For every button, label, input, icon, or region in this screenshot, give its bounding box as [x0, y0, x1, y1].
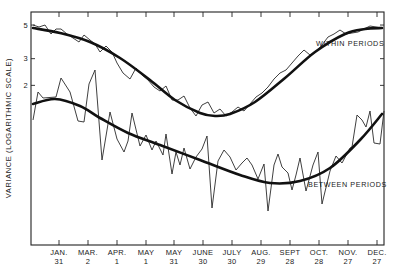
x-tick-label-day: 1	[144, 257, 148, 266]
x-tick-label-month: JUNE	[193, 248, 214, 257]
x-tick-label-month: APR.	[108, 248, 127, 257]
between-periods-raw-line	[33, 70, 384, 211]
x-tick-label-month: OCT.	[310, 248, 328, 257]
x-tick-label-day: 30	[228, 257, 237, 266]
y-tick-label: 5	[24, 21, 28, 30]
x-tick-label-month: AUG.	[251, 248, 271, 257]
x-tick-label-day: 27	[373, 257, 382, 266]
x-tick-label-day: 1	[115, 257, 119, 266]
within-periods-label: WITHIN PERIODS	[316, 39, 384, 48]
x-tick-label-day: 30	[199, 257, 208, 266]
x-tick-label-day: 28	[286, 257, 295, 266]
x-tick-label-day: 27	[344, 257, 353, 266]
x-tick-label-month: MAR.	[78, 248, 98, 257]
x-tick-label-month: NOV.	[339, 248, 358, 257]
y-tick-label: 3	[24, 54, 28, 63]
x-tick-label-day: 31	[170, 257, 179, 266]
x-tick-label-month: SEPT	[280, 248, 301, 257]
x-tick-label-day: 2	[86, 257, 90, 266]
between-periods-label: BETWEEN PERIODS	[308, 180, 387, 189]
y-axis-title: VARIANCE (LOGARITHMIC SCALE)	[4, 58, 13, 198]
x-tick-label-month: DEC.	[367, 248, 386, 257]
x-tick-label-month: MAY	[138, 248, 155, 257]
x-tick-label-month: JAN.	[50, 248, 67, 257]
variance-chart: 23510152030405060 JAN.31MAR.2APR.1MAY1MA…	[0, 0, 395, 267]
x-tick-label-month: MAY	[166, 248, 183, 257]
y-tick-label: 2	[24, 81, 28, 90]
x-tick-label-day: 29	[257, 257, 266, 266]
x-tick-label-day: 28	[315, 257, 324, 266]
x-tick-label-month: JULY	[223, 248, 242, 257]
x-tick-label-day: 31	[55, 257, 64, 266]
